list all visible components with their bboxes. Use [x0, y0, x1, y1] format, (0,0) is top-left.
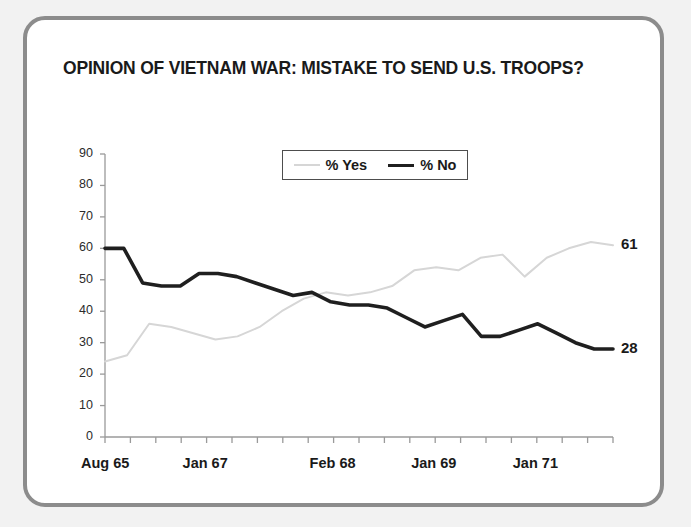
y-tick-label: 50: [67, 272, 93, 286]
chart-card: OPINION OF VIETNAM WAR: MISTAKE TO SEND …: [23, 16, 664, 507]
y-tick-label: 90: [67, 146, 93, 160]
y-tick-label: 60: [67, 240, 93, 254]
chart-plot-area: [27, 20, 660, 503]
legend-item-no: % No: [388, 157, 456, 173]
y-tick-label: 80: [67, 177, 93, 191]
y-tick-label: 40: [67, 303, 93, 317]
x-tick-label: Jan 69: [411, 455, 456, 471]
series-end-label-yes: 61: [621, 235, 638, 252]
y-tick-label: 20: [67, 366, 93, 380]
y-tick-label: 70: [67, 209, 93, 223]
series-end-label-no: 28: [621, 339, 638, 356]
legend-swatch-yes-icon: [294, 164, 320, 166]
line-chart-svg: [27, 20, 660, 503]
legend-item-yes: % Yes: [294, 157, 368, 173]
screenshot-root: OPINION OF VIETNAM WAR: MISTAKE TO SEND …: [0, 0, 691, 527]
x-tick-label: Feb 68: [310, 455, 356, 471]
x-tick-label: Aug 65: [81, 455, 129, 471]
legend-label-no: % No: [420, 157, 456, 173]
x-tick-label: Jan 67: [183, 455, 228, 471]
chart-legend: % Yes % No: [282, 150, 468, 180]
legend-swatch-no-icon: [388, 164, 414, 167]
y-tick-label: 10: [67, 398, 93, 412]
y-tick-label: 0: [67, 429, 93, 443]
legend-label-yes: % Yes: [326, 157, 368, 173]
x-tick-label: Jan 71: [513, 455, 558, 471]
y-tick-label: 30: [67, 335, 93, 349]
